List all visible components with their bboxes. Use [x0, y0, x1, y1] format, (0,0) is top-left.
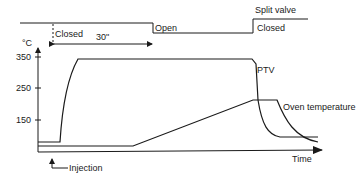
y-tick-150: 150: [16, 115, 31, 125]
duration-label: 30": [96, 32, 109, 42]
oven-temperature-curve: [38, 100, 318, 146]
ptv-label: PTV: [257, 65, 275, 75]
oven-temperature-label: Oven temperature: [283, 102, 356, 112]
time-axis: [38, 150, 322, 152]
ptv-splitless-timing-diagram: Split valve Closed Open Closed 30" °C 35…: [0, 0, 360, 178]
time-axis-label: Time: [292, 154, 312, 164]
split-valve-title: Split valve: [255, 5, 296, 15]
state-closed-2: Closed: [257, 23, 285, 33]
state-closed-1: Closed: [55, 29, 83, 39]
state-open: Open: [155, 23, 177, 33]
y-tick-250: 250: [16, 83, 31, 93]
injection-label: Injection: [69, 163, 103, 173]
y-unit-label: °C: [22, 38, 33, 48]
y-tick-350: 350: [16, 52, 31, 62]
